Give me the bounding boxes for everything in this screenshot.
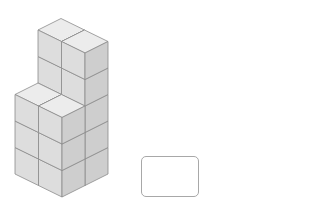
answer-box[interactable] xyxy=(141,156,199,197)
